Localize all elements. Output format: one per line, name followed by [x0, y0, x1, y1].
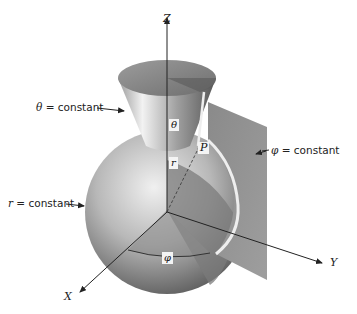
theta-constant-text: = constant: [42, 101, 103, 113]
phi-constant-text: = constant: [278, 144, 339, 156]
r-constant-text: = constant: [13, 197, 74, 209]
point-p-tag: P: [198, 142, 209, 154]
phi-angle-tag: φ: [162, 252, 173, 264]
theta-constant-label: θ = constant: [36, 101, 103, 113]
y-axis-label: Y: [330, 256, 337, 269]
r-radius-tag: r: [169, 157, 178, 169]
theta-angle-tag: θ: [169, 119, 179, 131]
z-axis-label: Z: [163, 12, 171, 25]
x-axis-label: X: [64, 290, 72, 303]
spherical-coordinates-diagram: [0, 0, 357, 314]
phi-constant-label: φ = constant: [271, 144, 339, 156]
r-constant-label: r = constant: [8, 197, 74, 209]
